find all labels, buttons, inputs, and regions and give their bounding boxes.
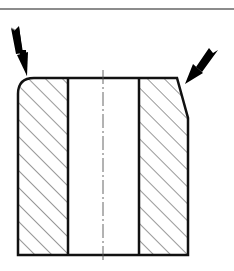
arrow-right-icon — [185, 48, 218, 84]
arrow-left-icon — [11, 26, 28, 76]
section-right — [130, 70, 200, 270]
bushing-section-diagram — [0, 0, 234, 271]
